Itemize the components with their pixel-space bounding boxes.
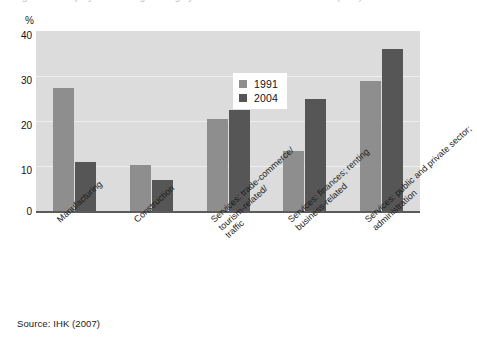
legend-label-1991: 1991 <box>254 78 278 90</box>
chart-legend: 1991 2004 <box>233 73 287 109</box>
legend-item-1991: 1991 <box>239 77 278 91</box>
y-tick-label-30: 30 <box>2 75 32 86</box>
gridline-30 <box>36 76 420 77</box>
y-tick-label-10: 10 <box>2 165 32 176</box>
legend-swatch-icon-1991 <box>239 80 247 88</box>
y-tick-label-20: 20 <box>2 120 32 131</box>
legend-swatch-icon-2004 <box>239 94 247 102</box>
legend-label-2004: 2004 <box>254 92 278 104</box>
legend-item-2004: 2004 <box>239 91 278 105</box>
y-axis-unit-label: % <box>25 15 34 26</box>
source-note: Source: IHK (2007) <box>17 318 100 329</box>
bar-3-1991 <box>207 119 228 212</box>
y-tick-label-40: 40 <box>2 30 32 41</box>
bar-1-1991 <box>53 88 74 212</box>
x-axis-category-labels: ManufacturingConstructionServices: trade… <box>0 212 446 322</box>
